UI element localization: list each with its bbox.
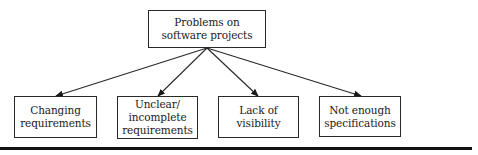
- arrow-to-lack-of-visibility: [207, 48, 258, 96]
- node-label: Not enough specifications: [324, 104, 396, 130]
- node-unclear-incomplete-requirements: Unclear/ incomplete requirements: [117, 96, 198, 139]
- node-label: Unclear/ incomplete requirements: [122, 98, 193, 137]
- node-label: Lack of visibility: [219, 104, 298, 130]
- arrow-to-unclear-requirements: [158, 48, 207, 96]
- root-node-problems-on-software-projects: Problems on software projects: [148, 10, 266, 48]
- horizontal-rule-divider: [0, 147, 472, 150]
- node-changing-requirements: Changing requirements: [14, 96, 97, 138]
- arrow-to-not-enough-specifications: [207, 48, 361, 96]
- node-not-enough-specifications: Not enough specifications: [319, 96, 401, 137]
- arrow-to-changing-requirements: [56, 48, 207, 96]
- root-node-label: Problems on software projects: [162, 16, 253, 42]
- node-label: Changing requirements: [20, 104, 91, 130]
- node-lack-of-visibility: Lack of visibility: [218, 96, 299, 138]
